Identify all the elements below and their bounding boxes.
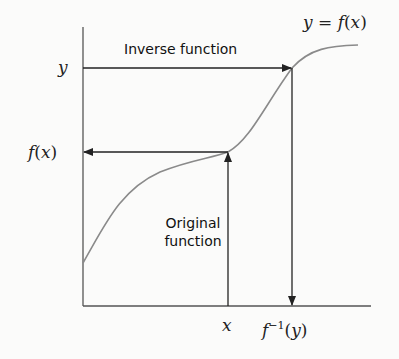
function-curve: [83, 45, 358, 263]
inverse-function-label: Inverse function: [124, 41, 237, 57]
original-function-label-line1: Original: [166, 215, 221, 231]
curve-label: y = f(x): [302, 12, 367, 32]
x-axis-label-finv: f−1(y): [260, 319, 307, 340]
original-function-label-line2: function: [164, 233, 221, 249]
inverse-function-diagram: y = f(x) Inverse function Original funct…: [0, 0, 399, 359]
y-axis-label-fx: f(x): [26, 142, 57, 162]
y-axis-label-y: y: [57, 57, 68, 77]
x-axis-label-x: x: [222, 315, 232, 335]
